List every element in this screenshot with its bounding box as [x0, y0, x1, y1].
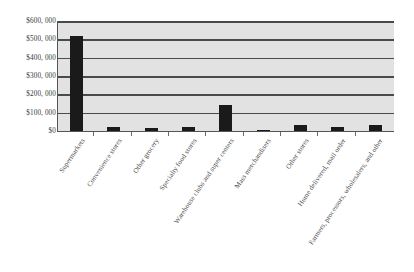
bar[interactable] — [182, 127, 195, 131]
bar[interactable] — [369, 125, 382, 131]
y-axis-tick-label: $100, 000 — [0, 109, 56, 117]
bar[interactable] — [257, 130, 270, 131]
y-axis: $600, 000$500, 000$400, 000$300, 000$200… — [0, 0, 56, 140]
bar-slot — [245, 21, 282, 131]
bar-chart-figure: $600, 000$500, 000$400, 000$300, 000$200… — [0, 0, 414, 272]
x-axis-category-label: Other stores — [284, 137, 310, 171]
y-axis-tick-label: $300, 000 — [0, 72, 56, 80]
x-axis-category-label: Farmers, processors, wholesalers, and ot… — [308, 137, 385, 246]
y-axis-tick-label: $500, 000 — [0, 35, 56, 43]
bar[interactable] — [70, 36, 83, 131]
x-axis-category-label: Specialty food stores — [158, 137, 199, 192]
plot-area — [57, 21, 394, 132]
x-axis-category-label: Mass merchandisers — [233, 137, 272, 190]
bar-slot — [357, 21, 394, 131]
y-axis-tick-label: $600, 000 — [0, 17, 56, 25]
bar[interactable] — [107, 127, 120, 131]
bars-layer — [58, 21, 394, 131]
bar[interactable] — [294, 125, 307, 131]
bar[interactable] — [331, 127, 344, 131]
x-axis-category-label: Other grocery — [132, 137, 161, 175]
y-axis-tick-label: $400, 000 — [0, 54, 56, 62]
y-axis-tick-label: $200, 000 — [0, 90, 56, 98]
bar-slot — [319, 21, 356, 131]
bar[interactable] — [145, 128, 158, 131]
bar[interactable] — [219, 105, 232, 131]
x-axis-category-labels: SupermarketsConvenience storesOther groc… — [57, 137, 393, 272]
x-axis-category-label: Convenience stores — [85, 137, 123, 188]
x-axis-category-label: Supermarkets — [57, 137, 86, 174]
bar-slot — [207, 21, 244, 131]
bar-slot — [95, 21, 132, 131]
bar-slot — [170, 21, 207, 131]
bar-slot — [282, 21, 319, 131]
bar-slot — [133, 21, 170, 131]
bar-slot — [58, 21, 95, 131]
y-axis-tick-label: $0 — [0, 127, 56, 135]
